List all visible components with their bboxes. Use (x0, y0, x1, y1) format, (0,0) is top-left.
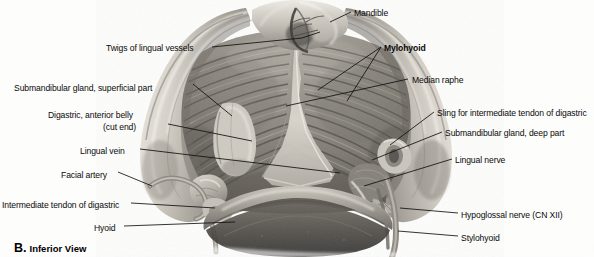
label-sling-for-intermediate-tendon-of-digastric: Sling for intermediate tendon of digastr… (437, 108, 587, 118)
label-lingual-nerve: Lingual nerve (455, 155, 505, 165)
label-digastric-anterior-belly: Digastric, anterior belly (48, 110, 133, 120)
caption-text: Inferior View (27, 243, 87, 254)
label-submandibular-gland-superficial-part: Submandibular gland, superficial part (14, 83, 152, 93)
label-twigs-of-lingual-vessels: Twigs of lingual vessels (106, 43, 193, 53)
anatomical-figure: Twigs of lingual vesselsSubmandibular gl… (0, 0, 594, 257)
label-digastric-cut-end: (cut end) (103, 122, 136, 132)
label-hypoglossal-nerve: Hypoglossal nerve (CN XII) (461, 210, 563, 220)
label-submandibular-gland-deep-part: Submandibular gland, deep part (445, 128, 564, 138)
label-facial-artery: Facial artery (61, 170, 107, 180)
label-lingual-vein: Lingual vein (80, 146, 125, 156)
figure-caption: B.Inferior View (14, 238, 86, 256)
label-stylohyoid: Stylohyoid (461, 233, 500, 243)
label-intermediate-tendon-of-digastric: Intermediate tendon of digastric (2, 200, 119, 210)
label-mylohyoid: Mylohyoid (384, 43, 426, 53)
label-mandible: Mandible (354, 8, 388, 18)
label-hyoid: Hyoid (94, 223, 115, 233)
caption-letter: B. (14, 241, 27, 255)
label-median-raphe: Median raphe (412, 75, 463, 85)
